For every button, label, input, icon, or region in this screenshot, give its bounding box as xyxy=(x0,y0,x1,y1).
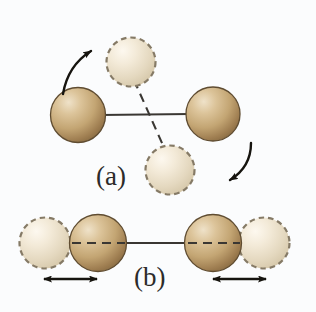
panel-label-b: (b) xyxy=(134,264,165,291)
panel-a-ghost-atom-top xyxy=(107,38,156,87)
panel-a-ghost-atom-bottom xyxy=(146,146,195,195)
panel-b-ghost-atom-right xyxy=(239,218,290,269)
figure-container: (a) (b) xyxy=(0,0,316,312)
panel-label-a: (a) xyxy=(96,163,126,190)
panel-a-bond-line xyxy=(100,114,190,115)
panel-a-atom-right xyxy=(186,87,240,141)
panel-b-ghost-atom-left xyxy=(20,218,71,269)
panel-a-atom-left xyxy=(51,88,106,143)
